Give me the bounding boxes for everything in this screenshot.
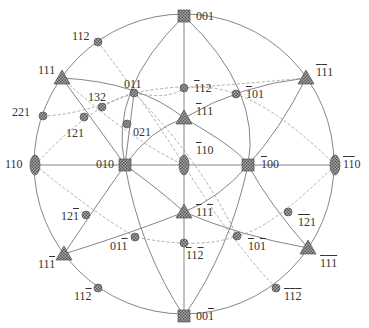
pole-marker-circle-icon <box>94 38 102 46</box>
pole-marker-circle-icon <box>180 239 188 247</box>
pole-label: 112 <box>72 30 90 42</box>
stereographic-projection <box>0 0 369 328</box>
pole-label: 001 <box>196 310 214 322</box>
pole-label: 021 <box>133 126 151 138</box>
pole-label: 110 <box>196 144 214 156</box>
pole-label: 221 <box>12 106 30 118</box>
pole-label: 110 <box>343 158 361 170</box>
pole-marker-triangle-icon <box>176 110 192 124</box>
pole-marker-circle-icon <box>180 84 188 92</box>
pole-marker-square-icon <box>242 159 254 171</box>
pole-marker-square-icon <box>119 159 131 171</box>
pole-marker-ellipse-icon <box>30 155 40 175</box>
pole-label: 111 <box>196 105 213 117</box>
pole-marker-ellipse-icon <box>330 155 340 175</box>
pole-label: 121 <box>66 127 84 139</box>
pole-marker-circle-icon <box>98 103 106 111</box>
pole-label: 110 <box>5 158 23 170</box>
pole-marker-triangle-icon <box>298 70 314 84</box>
pole-marker-triangle-icon <box>56 246 72 260</box>
pole-label: 100 <box>261 158 279 170</box>
pole-marker-circle-icon <box>272 284 280 292</box>
pole-marker-circle-icon <box>82 211 90 219</box>
pole-markers <box>30 10 340 322</box>
pole-label: 112 <box>186 249 204 261</box>
pole-label: 101 <box>248 240 266 252</box>
pole-label: 001 <box>196 10 214 22</box>
pole-label: 112 <box>194 82 212 94</box>
pole-marker-square-icon <box>178 310 190 322</box>
pole-label: 132 <box>88 91 106 103</box>
pole-marker-triangle-icon <box>176 204 192 218</box>
pole-label: 121 <box>61 210 79 222</box>
pole-label: 010 <box>96 158 114 170</box>
pole-marker-circle-icon <box>131 233 139 241</box>
pole-marker-circle-icon <box>232 90 240 98</box>
pole-label: 112 <box>284 290 302 302</box>
pole-marker-circle-icon <box>80 113 88 121</box>
pole-marker-circle-icon <box>233 232 241 240</box>
pole-label: 011 <box>124 78 142 90</box>
pole-label: 121 <box>298 216 316 228</box>
pole-marker-circle-icon <box>39 112 47 120</box>
pole-marker-circle-icon <box>123 120 131 128</box>
pole-label: 111 <box>320 257 337 269</box>
pole-label: 111 <box>196 206 213 218</box>
pole-marker-square-icon <box>178 10 190 22</box>
pole-label: 111 <box>38 64 55 76</box>
pole-label: 111 <box>38 258 55 270</box>
pole-marker-triangle-icon <box>54 70 70 84</box>
pole-label: 112 <box>74 290 92 302</box>
pole-marker-circle-icon <box>94 284 102 292</box>
pole-label: 111 <box>316 66 333 78</box>
pole-label: 101 <box>246 88 264 100</box>
pole-marker-ellipse-icon <box>179 155 189 175</box>
pole-label: 011 <box>110 240 128 252</box>
pole-marker-circle-icon <box>284 208 292 216</box>
